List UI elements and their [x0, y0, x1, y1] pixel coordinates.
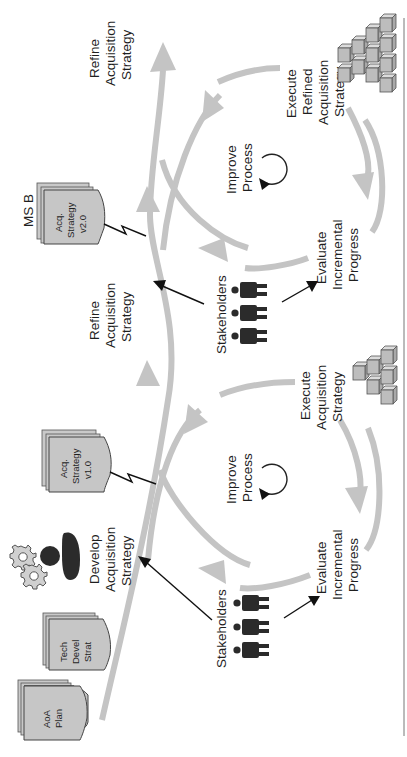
- doc-tech-devel-strat: Tech Devel Strat: [43, 613, 111, 670]
- evaluate1-line-1: Evaluate: [314, 541, 329, 594]
- evaluate1-line-2: Incremental: [330, 529, 345, 600]
- execute1-line-1: Execute: [298, 371, 313, 420]
- svg-text:Stakeholders: Stakeholders: [214, 589, 229, 668]
- develop-strategy-icon: [10, 532, 80, 589]
- execute2-line-3: Acquisition: [316, 60, 331, 125]
- develop-line-2: Acquisition: [103, 527, 118, 592]
- doc-v2-line-3: v2.0: [77, 215, 88, 233]
- improve-process-1: Improve Process: [224, 453, 287, 504]
- doc-v2-line-2: Strategy: [65, 202, 76, 238]
- refine1-line-3: Strategy: [119, 291, 134, 342]
- acquisition-strategy-diagram: AoA Plan Tech Devel Strat Acq. Strategy …: [0, 0, 407, 757]
- svg-text:Process: Process: [240, 453, 255, 502]
- doc-aoa-plan: AoA Plan: [18, 680, 88, 740]
- refine1-line-1: Refine: [87, 301, 102, 340]
- doc-acq-strategy-v1: Acq. Strategy v1.0: [42, 430, 156, 492]
- cycle-icon: [262, 464, 287, 494]
- doc-v1-line-3: v1.0: [82, 461, 93, 479]
- doc-tech-line-2: Devel: [70, 640, 81, 664]
- cubes-large-icon: [338, 14, 396, 92]
- evaluate1-line-3: Progress: [346, 538, 361, 592]
- doc-acq-strategy-v2: Acq. Strategy v2.0: [37, 183, 146, 244]
- svg-text:Process: Process: [240, 143, 255, 192]
- refine2-line-1: Refine: [87, 39, 102, 78]
- refine2-line-2: Acquisition: [103, 21, 118, 86]
- doc-tech-line-1: Tech: [58, 642, 69, 662]
- execute2-line-2: Refined: [300, 68, 315, 115]
- refine2-line-3: Strategy: [119, 29, 134, 80]
- doc-v2-line-1: Acq.: [53, 213, 64, 232]
- doc-aoa-line-2: Plan: [53, 709, 64, 728]
- refine1-line-2: Acquisition: [103, 283, 118, 348]
- improve-process-2: Improve Process: [224, 143, 287, 194]
- evaluate2-line-3: Progress: [346, 228, 361, 282]
- doc-v1-line-1: Acq.: [58, 459, 69, 478]
- stakeholders-1: Stakeholders: [138, 556, 320, 668]
- doc-tech-line-3: Strat: [82, 642, 93, 662]
- evaluate2-line-1: Evaluate: [314, 231, 329, 284]
- develop-line-1: Develop: [87, 534, 102, 584]
- main-flow-arrow: [102, 42, 176, 720]
- cubes-small-icon: [353, 346, 397, 404]
- execute1-line-2: Acquisition: [314, 365, 329, 430]
- execute2-line-1: Execute: [284, 69, 299, 118]
- doc-aoa-line-1: AoA: [41, 709, 52, 728]
- develop-line-3: Strategy: [119, 535, 134, 586]
- stakeholders-2: Stakeholders: [153, 275, 318, 354]
- evaluate2-line-2: Incremental: [330, 219, 345, 290]
- cycle-icon: [262, 154, 287, 184]
- svg-text:Improve: Improve: [224, 145, 239, 194]
- execute1-line-3: Strategy: [330, 371, 345, 422]
- milestone-ms-b: MS B: [21, 194, 36, 227]
- svg-text:Stakeholders: Stakeholders: [214, 275, 229, 354]
- svg-text:Improve: Improve: [224, 455, 239, 504]
- doc-v1-line-2: Strategy: [70, 448, 81, 484]
